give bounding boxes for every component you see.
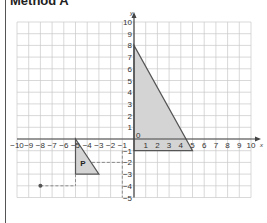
x-tick-label: −2 [106, 141, 116, 150]
x-tick-label: 9 [237, 141, 242, 150]
x-axis-arrow-icon [255, 137, 261, 142]
y-tick-label: −3 [123, 170, 133, 179]
point-marker [38, 184, 42, 188]
x-tick-label: −10 [10, 141, 24, 150]
y-tick-label: 1 [128, 123, 133, 132]
x-tick-label: 7 [214, 141, 219, 150]
x-tick-label: −6 [59, 141, 69, 150]
y-tick-label: 5 [128, 77, 133, 86]
origin-label: 0 [136, 131, 141, 140]
y-tick-label: 3 [128, 100, 133, 109]
x-tick-label: 10 [247, 141, 256, 150]
triangle-p-label: P [80, 159, 86, 168]
large-triangle [134, 45, 193, 150]
x-axis-label: x [259, 142, 264, 148]
y-tick-label: −5 [123, 194, 133, 203]
y-tick-label: −1 [123, 147, 133, 156]
x-tick-label: 6 [202, 141, 207, 150]
x-tick-label: 5 [190, 141, 195, 150]
x-tick-label: 8 [225, 141, 230, 150]
x-tick-label: −5 [71, 141, 81, 150]
y-tick-label: 4 [128, 88, 133, 97]
x-tick-label: 2 [155, 141, 160, 150]
y-tick-label: 10 [123, 18, 132, 27]
y-tick-label: 6 [128, 65, 133, 74]
x-tick-label: −3 [94, 141, 104, 150]
coordinate-grid: xy−10−9−8−7−6−5−4−3−2−112345678910109876… [0, 0, 267, 223]
y-tick-label: 9 [128, 30, 133, 39]
x-tick-label: −7 [48, 141, 58, 150]
x-tick-label: −4 [83, 141, 93, 150]
x-tick-label: 4 [179, 141, 184, 150]
y-tick-label: 2 [128, 112, 133, 121]
y-tick-label: −4 [123, 182, 133, 191]
y-tick-label: 8 [128, 41, 133, 50]
y-tick-label: 7 [128, 53, 133, 62]
y-tick-label: −2 [123, 158, 133, 167]
x-tick-label: −9 [24, 141, 34, 150]
x-tick-label: −8 [36, 141, 46, 150]
x-tick-label: 3 [167, 141, 172, 150]
x-tick-label: 1 [143, 141, 148, 150]
